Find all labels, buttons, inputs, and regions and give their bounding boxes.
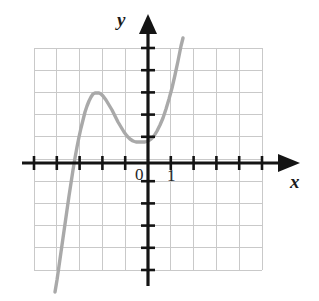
function-curve xyxy=(55,38,183,292)
x-axis-arrowhead xyxy=(278,154,300,172)
x-tick-label-one: 1 xyxy=(167,167,176,184)
graph-figure: y x 0 1 xyxy=(0,0,319,301)
y-axis xyxy=(139,14,157,286)
origin-label: 0 xyxy=(135,166,144,183)
y-axis-arrowhead xyxy=(139,14,157,34)
x-axis-label: x xyxy=(290,172,300,191)
y-axis-label: y xyxy=(117,10,125,29)
x-axis xyxy=(22,154,300,172)
coordinate-plane xyxy=(0,0,319,301)
